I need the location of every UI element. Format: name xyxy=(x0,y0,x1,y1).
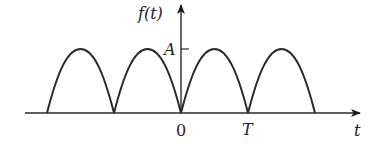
period-label: T xyxy=(242,120,254,139)
arch-4 xyxy=(248,49,315,113)
arch-1 xyxy=(47,49,114,113)
amplitude-label: A xyxy=(162,40,176,59)
arch-3 xyxy=(181,49,248,113)
full-wave-rectified-sine-diagram: f(t) A 0 T t xyxy=(0,0,382,146)
y-axis-label: f(t) xyxy=(137,4,163,23)
x-axis-label: t xyxy=(354,121,361,140)
origin-label: 0 xyxy=(176,121,186,140)
